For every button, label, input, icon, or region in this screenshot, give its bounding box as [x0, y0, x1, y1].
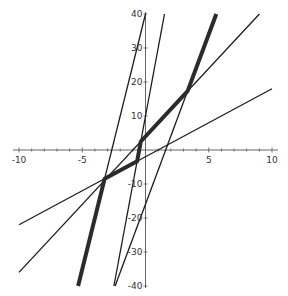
y-tick-label: -20 [128, 213, 143, 223]
y-tick-label: -30 [128, 247, 143, 257]
x-tick-label: 5 [206, 155, 212, 165]
x-tick-label: 10 [266, 155, 278, 165]
y-tick-label: -40 [128, 281, 143, 291]
line-chart: -10-5510-40-30-20-1010203040 [0, 0, 288, 296]
axes [13, 12, 278, 288]
x-tick-label: -5 [78, 155, 87, 165]
y-tick-label: 40 [131, 9, 143, 19]
y-tick-label: -10 [128, 179, 143, 189]
x-tick-label: -10 [12, 155, 27, 165]
y-tick-label: 20 [131, 77, 143, 87]
series-line-5 [115, 91, 188, 286]
y-tick-label: 30 [131, 43, 143, 53]
y-tick-label: 10 [131, 111, 143, 121]
